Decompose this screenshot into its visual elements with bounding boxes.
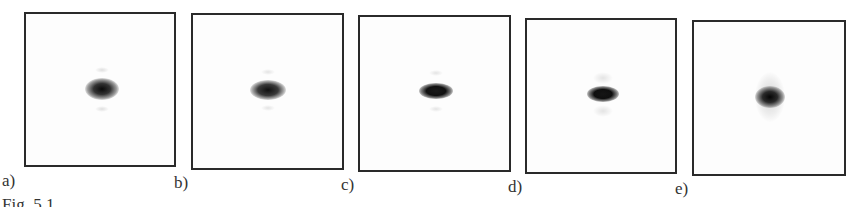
panel-a: [24, 12, 176, 167]
figure-caption: Fig. 5.1: [2, 196, 54, 207]
panel-b: [191, 13, 344, 170]
panel-d: [525, 18, 677, 174]
panel-label-a: a): [2, 172, 15, 190]
diffraction-spot: [755, 86, 785, 108]
halo-bottom: [593, 105, 613, 117]
side-lobe-bottom: [429, 106, 443, 112]
diffraction-spot: [85, 78, 119, 100]
side-lobe-bottom: [261, 105, 275, 111]
panel-c: [358, 15, 511, 172]
diffraction-spot: [250, 80, 286, 100]
panel-label-c: c): [341, 176, 354, 194]
halo-top: [593, 72, 613, 84]
panel-label-d: d): [508, 178, 522, 196]
diffraction-spot: [419, 83, 453, 99]
panel-label-e: e): [675, 180, 688, 198]
side-lobe-top: [429, 70, 443, 76]
panel-e: [692, 20, 846, 176]
panel-label-b: b): [174, 174, 188, 192]
side-lobe-bottom: [95, 106, 109, 112]
side-lobe-top: [261, 69, 275, 75]
side-lobe-top: [95, 67, 109, 73]
diffraction-spot: [587, 86, 619, 102]
